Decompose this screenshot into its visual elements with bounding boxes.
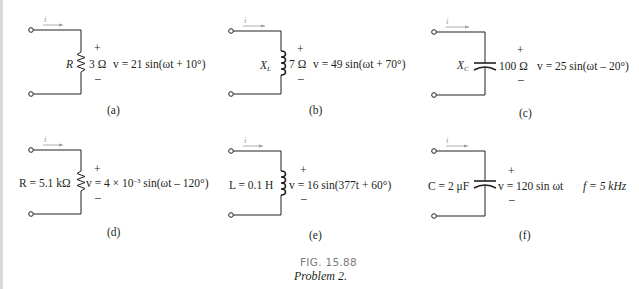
minus-a: –: [95, 73, 101, 85]
equation-a: v = 21 sin(ωt + 10°): [113, 59, 206, 71]
figure-number: FIG. 15.88: [300, 256, 357, 268]
element-text-e: L = 0.1 H: [229, 180, 273, 192]
current-label-a: i: [44, 14, 47, 24]
equation-d: v = 4 × 10–3 sin(ωt – 120°): [86, 178, 209, 190]
element-symbol-b: XL: [260, 60, 271, 73]
caption-f: (f): [519, 229, 531, 241]
caption-b: (b): [309, 104, 322, 116]
plus-c: +: [517, 45, 524, 57]
equation-f: v = 120 sin ωt: [498, 181, 563, 193]
minus-e: –: [301, 193, 307, 205]
current-label-e: i: [244, 135, 247, 145]
circuit-a: [29, 25, 85, 96]
frequency-f: f = 5 kHz: [583, 181, 626, 193]
element-text-d: R = 5.1 kΩ: [19, 178, 70, 190]
element-text-f: C = 2 μF: [428, 181, 469, 193]
current-label-c: i: [446, 16, 449, 26]
element-value-c: 100 Ω: [499, 61, 528, 73]
minus-d: –: [95, 192, 101, 204]
element-symbol-a: R: [66, 59, 73, 71]
caption-d: (d): [107, 226, 120, 238]
element-value-b: 7 Ω: [289, 59, 306, 71]
caption-a: (a): [107, 104, 120, 116]
element-value-a: 3 Ω: [89, 59, 106, 71]
current-label-d: i: [44, 134, 47, 144]
plus-b: +: [297, 44, 304, 56]
current-label-b: i: [244, 15, 247, 25]
equation-b: v = 49 sin(ωt + 70°): [313, 59, 406, 71]
circuit-b: [229, 26, 286, 96]
equation-e: v = 16 sin(377t + 60°): [289, 180, 391, 192]
plus-f: +: [508, 166, 515, 178]
minus-b: –: [298, 73, 304, 85]
caption-c: (c): [519, 107, 532, 119]
figure-caption: Problem 2.: [294, 269, 347, 284]
caption-e: (e): [309, 229, 322, 241]
element-symbol-c: XC: [457, 60, 469, 73]
plus-a: +: [94, 43, 101, 55]
plus-d: +: [94, 164, 101, 176]
equation-c: v = 25 sin(ωt – 20°): [537, 61, 629, 73]
minus-c: –: [518, 74, 524, 86]
minus-f: –: [509, 194, 515, 206]
current-label-f: i: [446, 135, 449, 145]
plus-e: +: [300, 165, 307, 177]
